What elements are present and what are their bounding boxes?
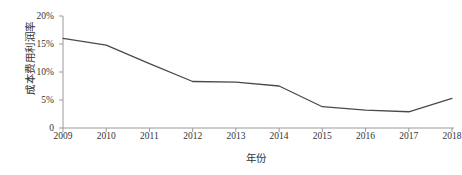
data-series-line [63, 38, 452, 111]
x-axis-ticks [63, 128, 452, 132]
line-chart: 成本费用利润率 05%10%15%20% 2009201020112012201… [0, 0, 462, 175]
plot-area [0, 0, 462, 175]
axes [59, 16, 454, 132]
y-axis-ticks [59, 16, 63, 128]
